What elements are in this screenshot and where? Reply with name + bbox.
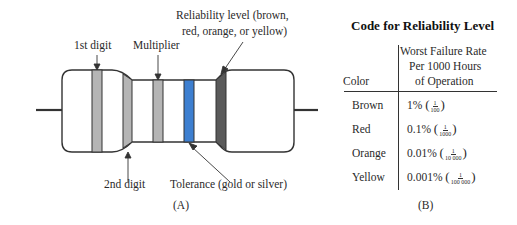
row-color: Brown <box>352 99 383 111</box>
arrow-tolerance <box>189 143 197 150</box>
header-rule <box>344 91 497 92</box>
label-first-digit: 1st digit <box>74 39 111 51</box>
header-rate-line1: Worst Failure Rate <box>400 45 487 57</box>
band-first-digit <box>92 70 102 152</box>
row-color: Red <box>352 123 371 135</box>
row-rate: 1% (1100) <box>407 97 445 113</box>
label-reliability-line1: Reliability level (brown, <box>176 9 289 21</box>
label-reliability-line2: red, orange, or yellow) <box>182 25 287 37</box>
band-reliability <box>216 72 226 150</box>
arrow-first-digit <box>94 64 100 70</box>
header-rate-line2: Per 1000 Hours <box>409 60 481 72</box>
caption-b: (B) <box>418 199 433 211</box>
label-tolerance: Tolerance (gold or silver) <box>170 178 287 190</box>
caption-a: (A) <box>173 199 189 211</box>
header-color: Color <box>343 75 369 87</box>
band-multiplier <box>153 80 163 142</box>
row-rate: 0.01% (110 000) <box>407 145 467 161</box>
arrow-second-digit <box>125 152 131 158</box>
row-color: Yellow <box>352 171 385 183</box>
row-rate: 0.001% (1100 000) <box>407 169 476 185</box>
label-multiplier: Multiplier <box>133 39 180 51</box>
row-rate: 0.1% (11000) <box>407 121 457 137</box>
label-second-digit: 2nd digit <box>104 178 145 190</box>
row-color: Orange <box>352 147 386 159</box>
band-tolerance <box>184 80 194 142</box>
header-rate-line3: of Operation <box>415 75 473 87</box>
column-divider <box>398 45 399 190</box>
arrow-multiplier <box>155 74 161 80</box>
band-second-digit <box>123 74 132 148</box>
table-title: Code for Reliability Level <box>351 18 494 34</box>
